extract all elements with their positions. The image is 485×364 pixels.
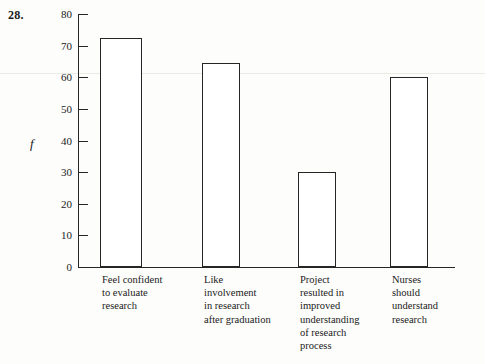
plot-area: 80706050403020100 Feel confident to eval… (78, 14, 455, 267)
category-label-4: Nurses should understand research (392, 273, 484, 326)
y-tick-mark (79, 14, 88, 15)
y-axis-label: f (30, 136, 34, 152)
bar-chart: f 80706050403020100 Feel confident to ev… (0, 0, 485, 364)
y-tick-70: 70 (78, 46, 88, 47)
x-axis-line (78, 267, 455, 268)
y-tick-label: 70 (61, 40, 72, 51)
y-tick-mark (79, 109, 88, 110)
y-tick-label: 60 (61, 72, 72, 83)
y-tick-30: 30 (78, 172, 88, 173)
y-tick-mark (79, 204, 88, 205)
y-tick-label: 20 (61, 198, 72, 209)
y-tick-0: 0 (78, 267, 88, 268)
category-label-2: Like involvement in research after gradu… (204, 273, 296, 326)
y-tick-label: 40 (61, 135, 72, 146)
bar-3 (298, 172, 336, 267)
y-tick-60: 60 (78, 77, 88, 78)
y-tick-80: 80 (78, 14, 88, 15)
y-tick-10: 10 (78, 235, 88, 236)
category-label-1: Feel confident to evaluate research (102, 273, 194, 313)
y-tick-label: 50 (61, 103, 72, 114)
y-tick-50: 50 (78, 109, 88, 110)
bar-4 (390, 77, 428, 267)
y-tick-20: 20 (78, 204, 88, 205)
y-tick-mark (79, 267, 88, 268)
y-tick-mark (79, 235, 88, 236)
category-label-3: Project resulted in improved understandi… (300, 273, 392, 352)
y-tick-mark (79, 46, 88, 47)
y-tick-label: 0 (67, 262, 73, 273)
bar-1 (100, 38, 142, 267)
y-tick-label: 30 (61, 167, 72, 178)
y-tick-40: 40 (78, 141, 88, 142)
y-tick-label: 80 (61, 9, 72, 20)
bar-2 (202, 63, 240, 267)
y-tick-mark (79, 172, 88, 173)
y-tick-label: 10 (61, 230, 72, 241)
y-tick-mark (79, 77, 88, 78)
y-tick-mark (79, 141, 88, 142)
